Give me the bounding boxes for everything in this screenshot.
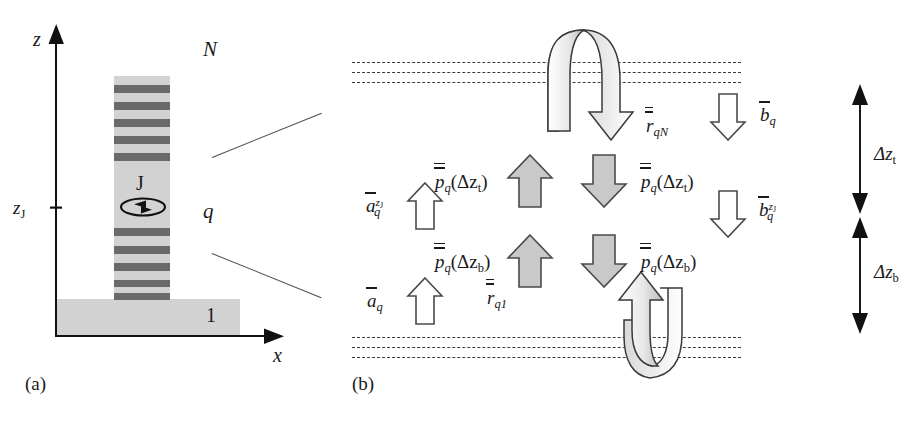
label-flux-up-bottom: p q(Δzb) — [435, 252, 490, 274]
overbar — [640, 163, 651, 165]
reflection-bottom-base: r — [487, 287, 494, 308]
label-flux-up-top: p q(Δzt) — [435, 172, 488, 194]
reflection-bottom-subscript: q1 — [494, 297, 507, 311]
figure-root: z x zJ J N q 1 (a) — [0, 0, 920, 431]
amp-up-zJ-base: a — [366, 195, 376, 216]
amplitude-up-arrow — [408, 278, 442, 324]
amplitude-down-arrow — [711, 94, 745, 140]
flux-up-bottom-arg-end: ) — [484, 251, 490, 272]
overbar — [640, 247, 651, 249]
overbar — [434, 243, 445, 245]
amp-down-base: b — [760, 104, 770, 125]
overbar — [434, 163, 445, 165]
thickness-top-text: Δz — [874, 143, 893, 164]
flux-up-bottom-overbars: p — [435, 252, 445, 271]
reflection-top-subscript: qN — [653, 125, 668, 139]
amp-up-zJ-overbar: a — [366, 196, 376, 215]
label-reflection-bottom: r q1 — [487, 288, 507, 310]
amp-down-overbar: b — [760, 105, 770, 124]
top-reflection-ribbon-right-with-head — [583, 30, 633, 140]
overbar — [758, 196, 769, 198]
thickness-bottom-arrowhead-up — [852, 217, 868, 238]
label-flux-down-top: p q(Δzt) — [641, 172, 694, 194]
thickness-top-subscript: t — [893, 153, 896, 167]
overbar — [486, 283, 494, 285]
label-reflection-top: r qN — [646, 116, 668, 138]
overbar — [486, 279, 494, 281]
flux-down-top-base: p — [641, 171, 651, 192]
thickness-bottom-arrowhead-down — [852, 313, 868, 334]
thickness-bottom-text: Δz — [874, 261, 893, 282]
flux-up-bottom-arrow — [508, 235, 552, 287]
overbar — [645, 111, 653, 113]
thickness-top-arrowhead-down — [852, 193, 868, 214]
label-amplitude-down: b q — [760, 105, 776, 127]
flux-down-bottom-arrow — [582, 235, 626, 287]
overbar — [640, 167, 651, 169]
flux-down-bottom-overbars: p — [641, 252, 651, 271]
label-thickness-bottom: Δzb — [874, 262, 899, 284]
amp-up-overbar: a — [367, 291, 377, 310]
overbar — [434, 167, 445, 169]
thickness-bottom-subscript: b — [893, 271, 899, 285]
flux-down-bottom-arg: (Δz — [657, 251, 684, 272]
overbar — [759, 101, 770, 103]
amp-up-subscript: q — [377, 300, 383, 314]
flux-up-bottom-base: p — [435, 251, 445, 272]
flux-down-bottom-arg-end: ) — [690, 251, 696, 272]
flux-down-top-arg-end: ) — [687, 171, 693, 192]
overbar — [645, 107, 653, 109]
amp-down-zJ-overbar: b — [759, 200, 769, 219]
label-amplitude-down-zJ: b zJq — [759, 200, 773, 222]
panel-b-vector-layer — [0, 0, 920, 431]
amp-up-zJ-sup-sub: J — [380, 201, 383, 210]
flux-up-top-arrow — [508, 155, 552, 207]
overbar — [434, 247, 445, 249]
flux-down-top-arg: (Δz — [657, 171, 684, 192]
overbar — [366, 287, 377, 289]
overbar — [365, 192, 376, 194]
reflection-bottom-overbars: r — [487, 288, 494, 307]
amplitude-down-zJ-arrow — [711, 191, 745, 237]
amp-down-zJ-sup-sub: J — [773, 205, 776, 214]
label-amplitude-up-zJ: a zJq — [366, 196, 380, 218]
flux-up-bottom-arg: (Δz — [451, 251, 478, 272]
flux-up-top-arg: (Δz — [451, 171, 478, 192]
flux-up-top-base: p — [435, 171, 445, 192]
amp-up-base: a — [367, 290, 377, 311]
flux-down-bottom-base: p — [641, 251, 651, 272]
thickness-top-arrowhead-up — [852, 84, 868, 105]
panel-b-tag: (b) — [352, 374, 374, 393]
reflection-top-overbars: r — [646, 116, 653, 135]
label-thickness-top: Δzt — [874, 144, 896, 166]
overbar — [640, 243, 651, 245]
flux-up-top-arg-end: ) — [481, 171, 487, 192]
top-reflection-ribbon-left-body — [548, 30, 585, 131]
amp-down-subscript: q — [770, 114, 776, 128]
flux-down-top-arrow — [582, 155, 626, 207]
amp-down-zJ-base: b — [759, 199, 769, 220]
flux-up-top-overbars: p — [435, 172, 445, 191]
flux-down-top-overbars: p — [641, 172, 651, 191]
label-flux-down-bottom: p q(Δzb) — [641, 252, 696, 274]
reflection-top-base: r — [646, 115, 653, 136]
label-amplitude-up: a q — [367, 291, 383, 313]
